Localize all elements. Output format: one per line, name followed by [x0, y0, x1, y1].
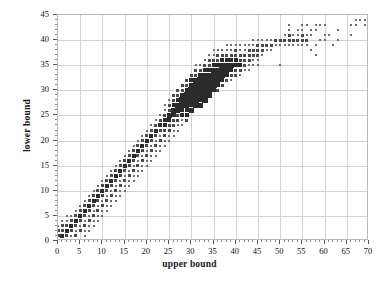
- y-tick-label: 15: [27, 160, 49, 170]
- x-tick-minor: [226, 240, 227, 242]
- data-point: [212, 59, 215, 62]
- data-point: [115, 200, 117, 202]
- data-point: [168, 129, 171, 132]
- data-point: [221, 54, 224, 57]
- data-point: [301, 29, 303, 31]
- data-point: [88, 219, 91, 222]
- data-point: [248, 44, 250, 46]
- x-tick-minor: [239, 240, 240, 242]
- data-point: [243, 64, 246, 67]
- data-point: [163, 118, 167, 122]
- data-point: [114, 189, 117, 192]
- x-tick-minor: [133, 240, 134, 242]
- data-point: [75, 230, 77, 232]
- data-point: [70, 229, 73, 232]
- data-point: [79, 229, 82, 232]
- data-point: [306, 24, 308, 26]
- data-point: [61, 224, 64, 227]
- data-point: [93, 210, 95, 212]
- x-tick-minor: [332, 240, 333, 242]
- data-point: [150, 155, 152, 157]
- data-point: [310, 29, 312, 31]
- data-point: [202, 97, 208, 103]
- data-point: [164, 140, 166, 142]
- data-point: [105, 199, 108, 202]
- data-point: [84, 230, 86, 232]
- y-tick-major: [53, 39, 57, 40]
- data-point: [266, 49, 268, 51]
- data-point: [115, 195, 117, 197]
- data-point: [128, 150, 130, 152]
- data-point: [225, 79, 228, 82]
- y-tick-minor: [55, 74, 57, 75]
- data-point: [136, 144, 139, 147]
- data-point: [124, 185, 126, 187]
- data-point: [119, 190, 121, 192]
- data-point: [132, 169, 135, 172]
- data-point: [208, 64, 211, 67]
- data-point: [123, 169, 126, 172]
- x-tick-major: [235, 240, 236, 244]
- data-point: [189, 78, 193, 82]
- data-point: [124, 175, 126, 177]
- x-tick-minor: [292, 240, 293, 242]
- x-tick-minor: [359, 240, 360, 242]
- data-point: [84, 235, 86, 237]
- data-point: [159, 150, 161, 152]
- x-tick-minor: [364, 240, 365, 242]
- data-point: [97, 215, 99, 217]
- data-point: [106, 205, 108, 207]
- x-tick-minor: [337, 240, 338, 242]
- data-point: [69, 224, 73, 228]
- data-point: [114, 169, 117, 172]
- data-point: [195, 64, 197, 66]
- data-point: [146, 165, 148, 167]
- data-point: [123, 179, 126, 182]
- data-point: [88, 199, 91, 202]
- y-tick-minor: [55, 109, 57, 110]
- data-point: [301, 24, 303, 26]
- data-point: [181, 119, 183, 121]
- data-point: [279, 64, 281, 66]
- data-point: [238, 63, 242, 67]
- data-point: [230, 49, 232, 51]
- data-point: [235, 44, 237, 46]
- data-point: [180, 108, 184, 112]
- y-tick-minor: [55, 49, 57, 50]
- y-tick-minor: [55, 175, 57, 176]
- y-axis-label: lower bound: [22, 99, 32, 152]
- data-point: [109, 179, 113, 183]
- data-point: [118, 169, 122, 173]
- data-point: [106, 195, 108, 197]
- data-point: [306, 34, 308, 36]
- data-point: [159, 129, 162, 132]
- x-tick-major: [79, 240, 80, 244]
- x-tick-minor: [84, 240, 85, 242]
- data-point: [176, 114, 179, 117]
- y-tick-major: [53, 215, 57, 216]
- data-point: [74, 234, 77, 237]
- data-point: [137, 160, 139, 162]
- data-point: [93, 220, 95, 222]
- data-point: [101, 204, 104, 207]
- x-tick-minor: [306, 240, 307, 242]
- x-tick-minor: [221, 240, 222, 242]
- data-point: [301, 39, 304, 42]
- data-point: [70, 215, 72, 217]
- data-point: [74, 224, 77, 227]
- x-tick-minor: [61, 240, 62, 242]
- data-point: [101, 215, 103, 217]
- x-tick-minor: [110, 240, 111, 242]
- data-point: [257, 39, 259, 41]
- y-tick-minor: [55, 44, 57, 45]
- data-point: [265, 44, 268, 47]
- data-point: [88, 195, 90, 197]
- x-tick-minor: [328, 240, 329, 242]
- x-tick-major: [190, 240, 191, 244]
- data-point: [185, 79, 188, 82]
- data-point: [355, 24, 357, 26]
- data-point: [172, 113, 176, 117]
- y-tick-minor: [55, 130, 57, 131]
- data-point: [163, 123, 167, 127]
- data-point: [359, 19, 361, 21]
